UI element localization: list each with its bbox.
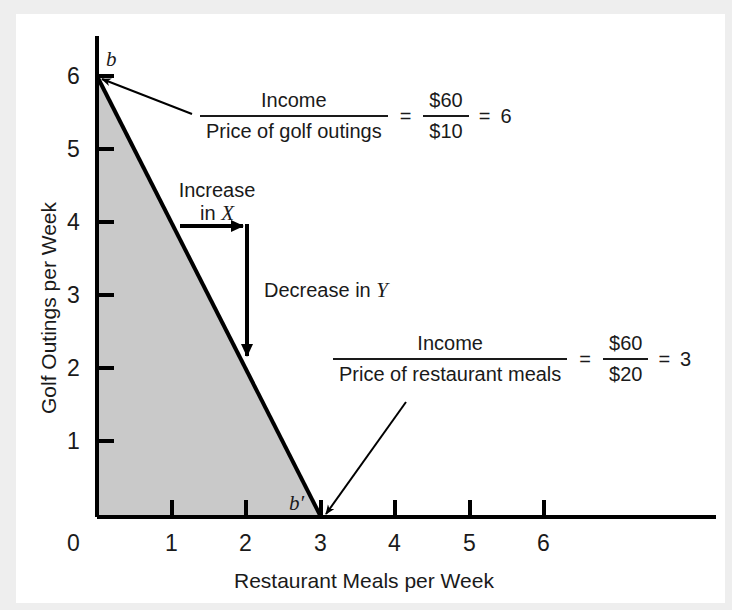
- formula-meals-value-numerator: $60: [603, 332, 648, 358]
- y-tick-label-3: 3: [67, 284, 80, 307]
- y-tick-label-1: 1: [67, 430, 80, 453]
- formula-golf-result: 6: [490, 105, 511, 128]
- x-tick-label-5: 5: [463, 532, 476, 555]
- increase-in-x-line2: in X: [169, 203, 265, 224]
- increase-in-x-line1: Increase: [169, 180, 265, 200]
- decrease-in-y-label: Decrease in Y: [264, 280, 388, 301]
- x-axis-title: Restaurant Meals per Week: [234, 570, 494, 591]
- formula-golf-equals2: =: [469, 105, 491, 128]
- formula-meals-equals: =: [567, 348, 603, 371]
- formula-golf-denominator: Price of golf outings: [200, 115, 388, 143]
- y-tick-label-4: 4: [67, 211, 80, 234]
- x-tick-label-3: 3: [314, 532, 327, 555]
- formula-golf-fraction: Income Price of golf outings: [200, 89, 388, 143]
- formula-meals-equals2: =: [648, 348, 670, 371]
- formula-meals-value-denominator: $20: [603, 358, 648, 386]
- formula-meals-fraction: Income Price of restaurant meals: [333, 332, 567, 386]
- x-tick-label-1: 1: [165, 532, 178, 555]
- formula-meals-numerator: Income: [411, 332, 489, 358]
- formula-golf-outings: Income Price of golf outings = $60 $10 =…: [200, 89, 512, 143]
- point-label-b: b: [106, 49, 117, 70]
- x-tick-label-2: 2: [239, 532, 252, 555]
- callout-leader-to-b-prime: [326, 402, 406, 514]
- formula-golf-value-numerator: $60: [423, 89, 468, 115]
- increase-in-x-variable: X: [221, 201, 234, 225]
- figure-container: 6 5 4 3 2 1 0 1 2 3 4 5 6 Golf Outings p…: [0, 0, 732, 610]
- chart-canvas: 6 5 4 3 2 1 0 1 2 3 4 5 6 Golf Outings p…: [16, 14, 725, 603]
- formula-meals-value-fraction: $60 $20: [603, 332, 648, 386]
- formula-golf-value-denominator: $10: [423, 115, 468, 143]
- x-tick-label-6: 6: [537, 532, 550, 555]
- y-tick-label-5: 5: [67, 138, 80, 161]
- formula-golf-value-fraction: $60 $10: [423, 89, 468, 143]
- point-label-b-prime: b′: [289, 493, 304, 514]
- decrease-in-y-prefix: Decrease in: [264, 279, 376, 301]
- formula-restaurant-meals: Income Price of restaurant meals = $60 $…: [333, 332, 691, 386]
- decrease-in-y-variable: Y: [376, 278, 388, 302]
- formula-golf-numerator: Income: [255, 89, 333, 115]
- formula-golf-equals: =: [388, 105, 424, 128]
- formula-meals-denominator: Price of restaurant meals: [333, 358, 567, 386]
- x-tick-label-4: 4: [388, 532, 401, 555]
- y-tick-label-2: 2: [67, 357, 80, 380]
- formula-meals-result: 3: [670, 348, 691, 371]
- y-tick-label-6: 6: [67, 65, 80, 88]
- increase-in-x-label: Increase in X: [169, 180, 265, 224]
- y-axis-title: Golf Outings per Week: [38, 202, 59, 414]
- increase-in-x-prefix: in: [200, 202, 221, 224]
- origin-label: 0: [67, 532, 80, 555]
